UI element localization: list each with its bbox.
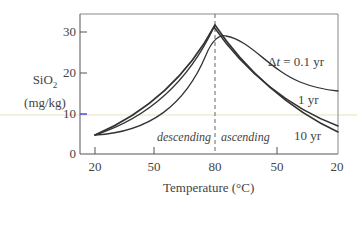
annotation-descending: descending	[157, 130, 211, 144]
annotation-ascending: ascending	[221, 130, 270, 144]
xtick-80: 80	[209, 159, 222, 174]
y-axis-label: SiO2 (mg/kg)	[20, 71, 70, 111]
x-ticks	[95, 147, 277, 154]
xtick-50-right: 50	[271, 159, 284, 174]
ytick-0: 0	[70, 146, 77, 161]
label-0.1yr: Δt = 0.1 yr	[268, 54, 325, 69]
x-tick-labels: 20 50 80 50 20	[89, 159, 344, 174]
series-lines	[95, 25, 338, 135]
xtick-20-right: 20	[331, 159, 344, 174]
series-1yr	[95, 27, 338, 135]
y-axis-label-units: (mg/kg)	[24, 95, 66, 110]
y-axis-label-main: SiO	[33, 72, 53, 87]
label-1yr: 1 yr	[298, 92, 319, 107]
series-0.1yr	[95, 36, 338, 135]
ytick-30: 30	[63, 24, 76, 39]
xtick-20-left: 20	[89, 159, 102, 174]
series-labels: Δt = 0.1 yr 1 yr 10 yr	[268, 54, 325, 143]
x-axis-label: Temperature (°C)	[163, 180, 254, 196]
y-ticks	[80, 32, 87, 114]
xtick-50-left: 50	[148, 159, 161, 174]
label-10yr: 10 yr	[294, 128, 322, 143]
y-axis-label-sub: 2	[53, 80, 58, 90]
annotations: descending ascending	[157, 130, 270, 144]
